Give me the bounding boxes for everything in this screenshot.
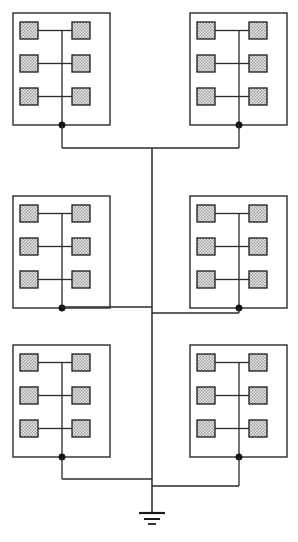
ground-symbol [139,513,165,524]
cell-right-3[interactable] [249,88,267,105]
cell-left-2[interactable] [20,238,38,255]
cell-left-1[interactable] [20,22,38,39]
cell-left-2[interactable] [20,387,38,404]
cell-right-2[interactable] [249,55,267,72]
cell-left-1[interactable] [197,22,215,39]
cell-left-1[interactable] [20,354,38,371]
module-bottom-left[interactable] [13,345,152,479]
cell-left-2[interactable] [197,238,215,255]
module-group [13,13,287,486]
cell-right-3[interactable] [72,88,90,105]
cell-right-1[interactable] [249,22,267,39]
cell-right-3[interactable] [72,420,90,437]
module-bottom-right[interactable] [152,345,287,486]
cell-right-1[interactable] [72,354,90,371]
cell-right-1[interactable] [249,205,267,222]
cell-left-3[interactable] [20,271,38,288]
cell-left-3[interactable] [20,420,38,437]
cell-right-2[interactable] [249,387,267,404]
cell-left-3[interactable] [197,271,215,288]
cell-right-1[interactable] [72,205,90,222]
cell-right-1[interactable] [249,354,267,371]
cell-left-3[interactable] [20,88,38,105]
schematic-diagram [0,0,298,542]
module-top-right[interactable] [152,13,287,148]
cell-right-3[interactable] [249,420,267,437]
schematic-canvas [0,0,298,542]
module-top-left[interactable] [13,13,152,148]
cell-left-1[interactable] [20,205,38,222]
cell-left-2[interactable] [197,55,215,72]
cell-right-2[interactable] [249,238,267,255]
cell-left-3[interactable] [197,88,215,105]
module-middle-left[interactable] [13,196,152,311]
cell-left-1[interactable] [197,205,215,222]
cell-left-3[interactable] [197,420,215,437]
cell-right-2[interactable] [72,238,90,255]
cell-right-3[interactable] [72,271,90,288]
cell-left-1[interactable] [197,354,215,371]
cell-right-2[interactable] [72,387,90,404]
module-middle-right[interactable] [152,196,287,313]
cell-left-2[interactable] [197,387,215,404]
cell-left-2[interactable] [20,55,38,72]
cell-right-2[interactable] [72,55,90,72]
cell-right-3[interactable] [249,271,267,288]
cell-right-1[interactable] [72,22,90,39]
